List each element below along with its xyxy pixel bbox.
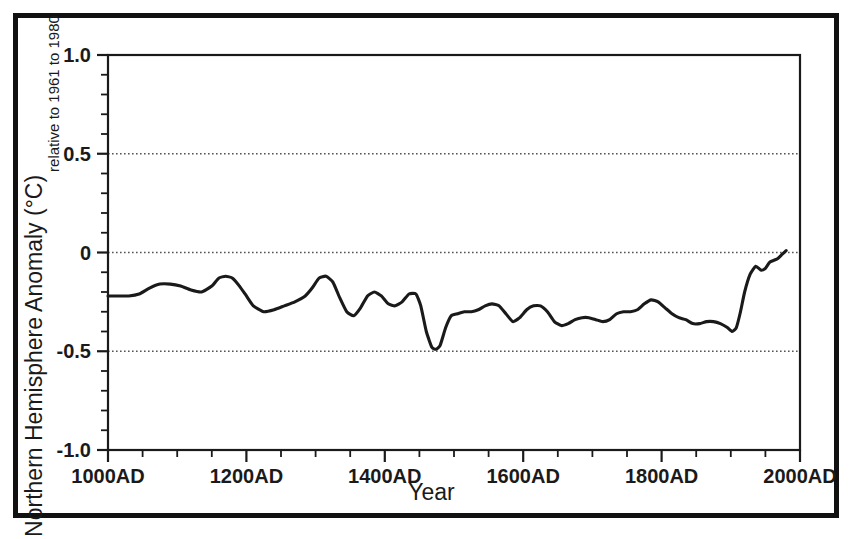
y-axis-title-sub: relative to 1961 to 1980 — [45, 15, 66, 172]
plot-area: 1.00.50-0.5-1.0 1000AD1200AD1400AD1600AD… — [0, 0, 863, 539]
axis-ticks — [97, 55, 800, 462]
data-line-0 — [108, 251, 786, 350]
data-series-layer — [108, 251, 786, 350]
x-axis-title: Year — [0, 479, 863, 506]
chart-svg — [0, 0, 863, 539]
grid-lines — [108, 154, 800, 352]
figure-container: 1.00.50-0.5-1.0 1000AD1200AD1400AD1600AD… — [0, 0, 863, 539]
y-axis-title: Northern Hemisphere Anomaly (°C) relativ… — [2, 66, 66, 486]
